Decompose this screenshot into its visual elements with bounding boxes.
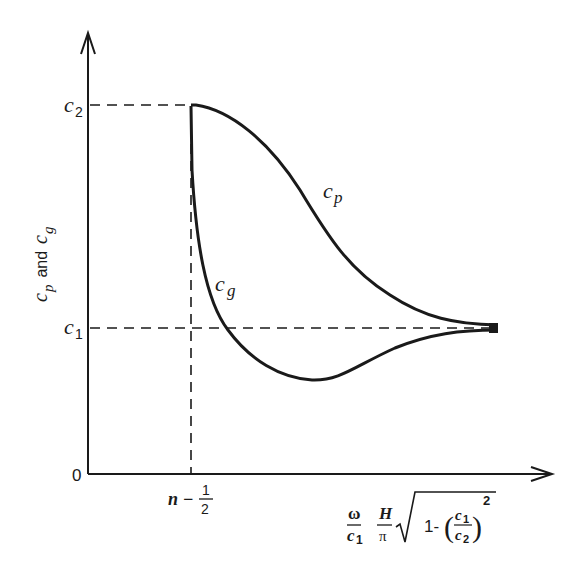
svg-text:ω: ω <box>348 504 360 523</box>
svg-text:c: c <box>29 235 51 244</box>
cg-label: c g <box>215 271 236 300</box>
y-tick-c1: c 1 <box>64 314 83 342</box>
svg-text:2: 2 <box>75 104 83 120</box>
svg-text:n −: n − <box>168 489 193 509</box>
svg-text:c: c <box>215 271 225 296</box>
dispersion-diagram: c 2 c 1 0 c p and c g c p c g n − 1 2 ω … <box>0 0 576 572</box>
svg-text:1-: 1- <box>424 517 439 536</box>
svg-text:1: 1 <box>356 533 363 547</box>
svg-text:c: c <box>64 92 74 117</box>
svg-text:and: and <box>33 246 50 282</box>
svg-text:c: c <box>455 527 462 543</box>
svg-text:c: c <box>29 293 51 302</box>
cp-label: c p <box>323 178 343 207</box>
svg-text:g: g <box>227 281 236 300</box>
svg-text:π: π <box>379 528 387 544</box>
svg-text:p: p <box>333 188 343 207</box>
svg-text:g: g <box>40 226 56 234</box>
svg-text:c: c <box>455 507 462 523</box>
x-axis-title: ω c 1 H π 1- ( c 1 c 2 ) 2 <box>347 492 496 547</box>
svg-text:1: 1 <box>75 326 83 342</box>
svg-text:p: p <box>40 284 56 293</box>
cp-curve <box>191 105 497 325</box>
cg-curve <box>191 106 497 380</box>
svg-text:H: H <box>378 504 393 523</box>
svg-text:2: 2 <box>483 493 490 508</box>
y-tick-c2: c 2 <box>64 92 83 120</box>
svg-text:1: 1 <box>463 513 469 525</box>
y-axis <box>81 33 95 474</box>
svg-text:c: c <box>64 314 74 339</box>
svg-text:c: c <box>323 178 333 203</box>
y-axis-title: c p and c g <box>29 226 56 302</box>
x-axis <box>88 467 552 481</box>
convergence-point <box>489 323 498 333</box>
svg-text:2: 2 <box>463 533 469 545</box>
svg-text:2: 2 <box>201 501 209 517</box>
y-tick-zero: 0 <box>72 466 81 485</box>
svg-text:(: ( <box>444 510 454 544</box>
svg-text:c: c <box>347 526 355 545</box>
svg-text:): ) <box>472 510 482 544</box>
x-tick-cutoff: n − 1 2 <box>168 482 213 517</box>
svg-text:1: 1 <box>202 482 210 498</box>
